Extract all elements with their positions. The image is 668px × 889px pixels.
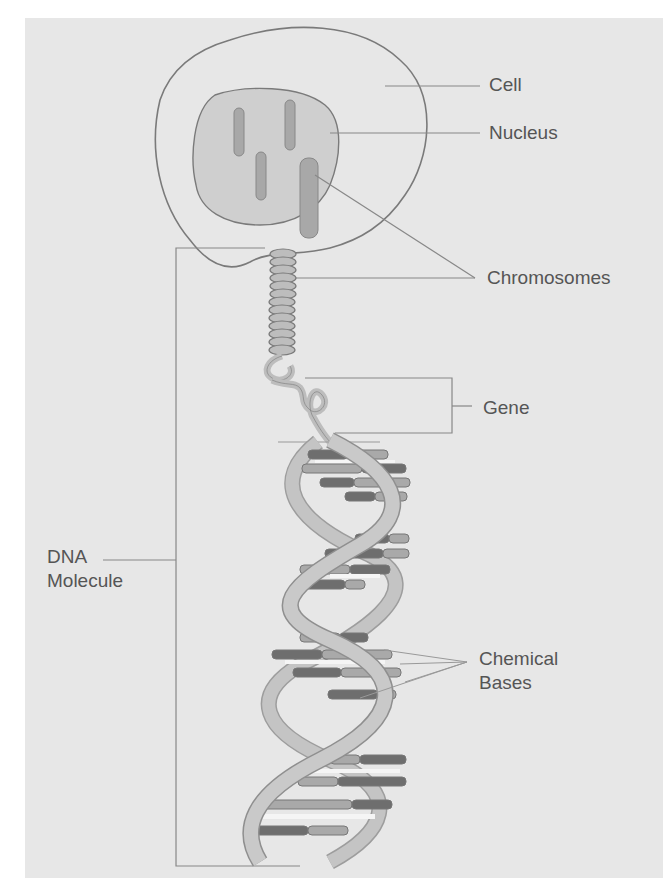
dna-double-helix (244, 440, 410, 862)
label-gene: Gene (483, 396, 529, 420)
label-dna-line1: DNA (47, 545, 123, 569)
label-dna-line2: Molecule (47, 569, 123, 593)
label-chemical-bases: Chemical Bases (479, 647, 558, 695)
cell-dna-diagram (0, 0, 668, 889)
label-bases-line1: Chemical (479, 647, 558, 671)
gene-bracket (305, 378, 472, 433)
label-nucleus: Nucleus (489, 121, 558, 145)
label-bases-line2: Bases (479, 671, 558, 695)
label-cell: Cell (489, 73, 522, 97)
label-chromosomes: Chromosomes (487, 266, 611, 290)
label-dna-molecule: DNA Molecule (47, 545, 123, 593)
chromatin-coil (269, 249, 296, 355)
